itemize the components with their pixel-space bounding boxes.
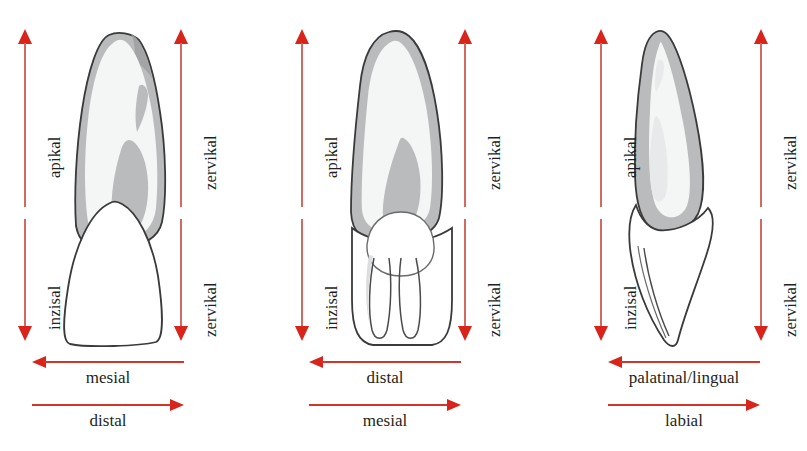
label-zervikal-lower: zervikal: [201, 282, 221, 337]
arrow-shaft: [321, 361, 461, 363]
arrowhead-up-icon: [174, 29, 188, 44]
label-mesial: mesial: [32, 368, 184, 388]
axis-shaft-upper: [24, 43, 26, 207]
axis-shaft-upper: [760, 43, 762, 207]
label-zervikal-upper: zervikal: [485, 135, 505, 190]
arrowhead-up-icon: [754, 29, 768, 44]
arrowhead-up-icon: [295, 29, 309, 44]
arrowhead-down-icon: [594, 326, 608, 341]
label-zervikal-lower: zervikal: [485, 282, 505, 337]
label-inzisal: inzisal: [45, 286, 65, 330]
label-zervikal-upper: zervikal: [201, 135, 221, 190]
label-zervikal-lower: zervikal: [781, 282, 801, 337]
label-mesial: mesial: [309, 411, 461, 431]
label-apikal: apikal: [322, 136, 342, 178]
arrow-shaft: [309, 404, 449, 406]
axis-shaft-lower: [24, 219, 26, 327]
axis-shaft-upper: [464, 43, 466, 207]
zervikal-axis: [458, 29, 472, 341]
label-distal: distal: [32, 411, 184, 431]
apikal-inzisal-axis: [18, 29, 32, 341]
arrowhead-down-icon: [174, 326, 188, 341]
panel-mesial-view: apikal inzisal zervikal zervikal mesial …: [0, 0, 269, 451]
distal-arrow: [309, 356, 461, 368]
axis-shaft-lower: [301, 219, 303, 327]
arrowhead-right-icon: [746, 399, 760, 411]
panel-labial-view: apikal inzisal zervikal zervikal palatin…: [538, 0, 807, 451]
label-palatinal-lingual: palatinal/lingual: [594, 368, 774, 388]
axis-shaft-lower: [760, 219, 762, 327]
arrowhead-down-icon: [295, 326, 309, 341]
palatinal-lingual-arrow: [608, 356, 760, 368]
axis-shaft-lower: [180, 219, 182, 327]
label-zervikal-upper: zervikal: [781, 135, 801, 190]
arrow-shaft: [620, 361, 760, 363]
arrow-shaft: [608, 404, 748, 406]
axis-shaft-upper: [600, 43, 602, 207]
labial-arrow: [608, 399, 760, 411]
mesial-arrow: [309, 399, 461, 411]
apikal-inzisal-axis: [295, 29, 309, 341]
axis-shaft-upper: [301, 43, 303, 207]
arrowhead-down-icon: [458, 326, 472, 341]
zervikal-axis: [174, 29, 188, 341]
arrowhead-down-icon: [754, 326, 768, 341]
arrowhead-down-icon: [18, 326, 32, 341]
mesial-arrow: [32, 356, 184, 368]
label-labial: labial: [608, 411, 760, 431]
axis-shaft-lower: [464, 219, 466, 327]
apikal-inzisal-axis: [594, 29, 608, 341]
label-inzisal: inzisal: [322, 286, 342, 330]
axis-shaft-lower: [600, 219, 602, 327]
zervikal-axis: [754, 29, 768, 341]
arrowhead-up-icon: [18, 29, 32, 44]
label-apikal: apikal: [621, 136, 641, 178]
panel-distal-view: apikal inzisal zervikal zervikal distal …: [269, 0, 538, 451]
arrow-shaft: [44, 361, 184, 363]
arrowhead-up-icon: [594, 29, 608, 44]
label-apikal: apikal: [45, 136, 65, 178]
arrowhead-right-icon: [447, 399, 461, 411]
label-inzisal: inzisal: [621, 286, 641, 330]
arrow-shaft: [32, 404, 172, 406]
axis-shaft-upper: [180, 43, 182, 207]
label-distal: distal: [309, 368, 461, 388]
arrowhead-up-icon: [458, 29, 472, 44]
distal-arrow: [32, 399, 184, 411]
arrowhead-right-icon: [170, 399, 184, 411]
